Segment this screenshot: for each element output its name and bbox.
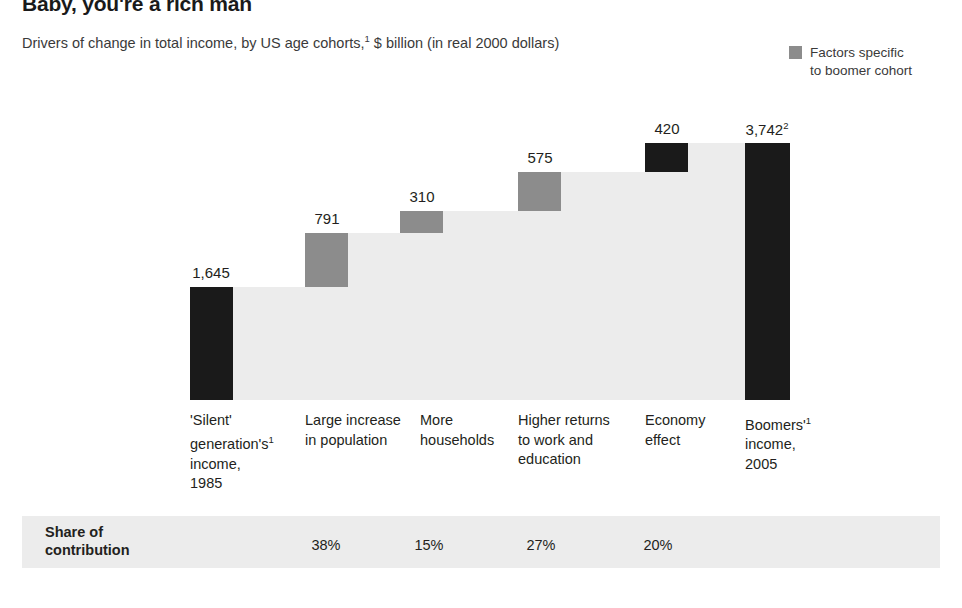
cat-line-2: to work and [518, 432, 593, 448]
bar-value-boomers-income: 3,7422 [727, 120, 807, 138]
bar-silent-generation-income [190, 287, 233, 400]
footnote-marker-1: 1 [806, 415, 811, 426]
category-label-economy-effect: Economy effect [645, 411, 745, 450]
category-label-boomers-income: Boomers'1 income, 2005 [745, 411, 855, 474]
cat-line-1: 'Silent' [190, 412, 232, 428]
share-value-economy-effect: 20% [627, 537, 689, 553]
bar-value-silent-generation-income: 1,645 [171, 264, 251, 281]
category-label-large-increase-in-population: Large increase in population [305, 411, 415, 450]
bar-value-boomers-income-number: 3,742 [746, 121, 784, 138]
bar-value-more-households: 310 [382, 188, 462, 205]
bar-value-large-increase-in-population: 791 [287, 210, 367, 227]
cat-line-2: generation's1 [190, 436, 274, 452]
category-label-more-households: More households [420, 411, 530, 450]
bar-boomers-income [745, 143, 790, 400]
plot-step-background-3 [400, 211, 518, 400]
cat-line-1: Higher returns [518, 412, 610, 428]
cat-line-2: in population [305, 432, 387, 448]
cat-line-2: households [420, 432, 494, 448]
cat-line-3: education [518, 451, 581, 467]
cat-line-1: Boomers'1 [745, 417, 811, 433]
share-label-line1: Share of [45, 524, 103, 540]
bar-more-households [400, 211, 443, 233]
category-label-higher-returns-to-work-and-education: Higher returns to work and education [518, 411, 636, 470]
share-label-line2: contribution [45, 542, 130, 558]
share-value-higher-returns-to-work-and-education: 27% [510, 537, 572, 553]
cat-line-3: income, [190, 456, 241, 472]
bar-economy-effect [645, 143, 688, 172]
footnote-marker-1: 1 [269, 435, 274, 446]
share-value-large-increase-in-population: 38% [295, 537, 357, 553]
bar-value-economy-effect: 420 [627, 120, 707, 137]
plot-step-background-5 [645, 143, 745, 400]
bar-value-higher-returns-to-work-and-education: 575 [500, 149, 580, 166]
category-label-silent-generation-income: 'Silent' generation's1 income, 1985 [190, 411, 302, 494]
cat-line-1: Large increase [305, 412, 401, 428]
cat-line-4: 1985 [190, 475, 222, 491]
cat-line-2: effect [645, 432, 680, 448]
share-of-contribution-band [22, 516, 940, 568]
bar-large-increase-in-population [305, 233, 348, 287]
cat-line-3: 2005 [745, 456, 777, 472]
share-of-contribution-label: Share of contribution [45, 523, 130, 559]
share-value-more-households: 15% [398, 537, 460, 553]
cat-line-2: income, [745, 436, 796, 452]
bar-higher-returns-to-work-and-education [518, 172, 561, 211]
cat-line-1: Economy [645, 412, 705, 428]
cat-line-1: More [420, 412, 453, 428]
footnote-marker-2: 2 [783, 120, 788, 131]
